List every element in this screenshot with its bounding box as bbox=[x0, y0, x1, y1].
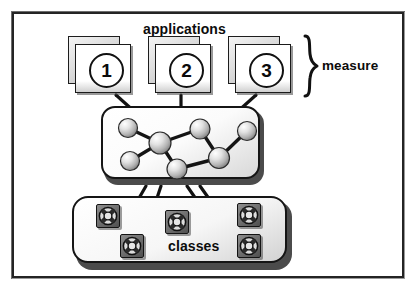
ring-segments-icon bbox=[96, 204, 120, 228]
card-number-2: 2 bbox=[169, 53, 204, 88]
ring-segments-icon bbox=[237, 203, 261, 227]
application-card-1[interactable]: 1 bbox=[68, 36, 132, 93]
ring-segments-icon bbox=[165, 210, 189, 234]
graph-network bbox=[101, 106, 264, 185]
class-icon-4[interactable] bbox=[120, 234, 146, 260]
class-icon-5[interactable] bbox=[237, 234, 263, 260]
graph-node-5[interactable] bbox=[238, 122, 257, 141]
application-card-3[interactable]: 3 bbox=[228, 36, 292, 93]
classes-label: classes bbox=[168, 238, 219, 254]
class-icon-1[interactable] bbox=[96, 204, 122, 230]
graph-node-1[interactable] bbox=[119, 119, 138, 138]
graph-node-6[interactable] bbox=[209, 148, 230, 169]
graph-node-2[interactable] bbox=[149, 132, 171, 154]
application-card-2[interactable]: 2 bbox=[148, 36, 212, 93]
ring-segments-icon bbox=[237, 234, 261, 258]
graph-node-3[interactable] bbox=[121, 152, 140, 171]
class-icon-3[interactable] bbox=[237, 203, 263, 229]
measure-graph-panel[interactable] bbox=[101, 106, 264, 185]
card-number-3: 3 bbox=[249, 53, 284, 88]
applications-label: applications bbox=[143, 21, 226, 37]
graph-edges bbox=[128, 128, 247, 169]
diagram-figure: applications 1 2 3 measure bbox=[0, 0, 420, 292]
measure-brace-icon bbox=[302, 34, 322, 98]
class-icon-2[interactable] bbox=[165, 210, 191, 236]
card-number-1: 1 bbox=[89, 53, 124, 88]
card-front-sheet: 2 bbox=[155, 44, 211, 93]
card-front-sheet: 1 bbox=[75, 44, 131, 93]
graph-node-7[interactable] bbox=[167, 159, 187, 179]
measure-label: measure bbox=[322, 58, 378, 73]
card-front-sheet: 3 bbox=[235, 44, 291, 93]
classes-panel[interactable] bbox=[72, 196, 292, 270]
ring-segments-icon bbox=[120, 234, 144, 258]
graph-nodes bbox=[119, 119, 257, 180]
graph-node-4[interactable] bbox=[190, 119, 210, 139]
